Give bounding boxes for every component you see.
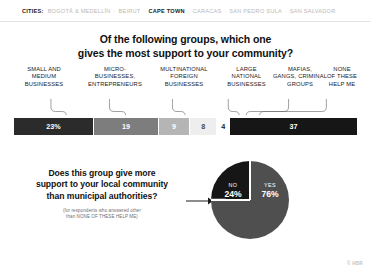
city-item-san-salvador[interactable]: SAN SALVADOR xyxy=(290,8,336,14)
footnote-line-2: than NONE OF THESE HELP ME) xyxy=(14,214,190,220)
pie-label-yes-value: 76% xyxy=(255,189,285,199)
chart-headline: Of the following groups, which one gives… xyxy=(0,33,371,60)
leader-line-1 xyxy=(109,99,125,115)
arrow-right-icon xyxy=(186,196,214,206)
leader-line-4 xyxy=(246,99,288,115)
city-item-beirut[interactable]: BEIRUT xyxy=(119,8,141,14)
pie-label-yes-key: YES xyxy=(255,182,285,188)
cities-nav: CITIES: BOGOTÁ & MEDELLÍN · BEIRUT · CAP… xyxy=(0,0,371,22)
leader-line-0 xyxy=(51,99,66,115)
city-item-bogota-medellin[interactable]: BOGOTÁ & MEDELLÍN xyxy=(48,8,111,14)
bar-segment-multinational-foreign[interactable]: 9 xyxy=(158,118,189,135)
pie-label-yes: YES 76% xyxy=(255,182,285,199)
bar-category-label-1: MICRO-BUSINESSES,ENTREPRENEURS xyxy=(82,66,148,88)
credit-hbr: © HBR xyxy=(347,261,363,266)
followup-line-2: support to your local community xyxy=(14,179,190,190)
bar-segment-mafias-gangs[interactable]: 4 xyxy=(216,118,230,135)
bar-category-label-0: SMALL ANDMEDIUMBUSINESSES xyxy=(12,66,76,88)
headline-line-1: Of the following groups, which one xyxy=(0,33,371,47)
city-item-cape-town[interactable]: CAPE TOWN xyxy=(148,8,184,14)
city-item-san-pedro-sula[interactable]: SAN PEDRO SULA xyxy=(229,8,282,14)
cities-label: CITIES: xyxy=(22,8,44,14)
city-separator: · xyxy=(114,8,116,14)
city-item-caracas[interactable]: CARACAS xyxy=(193,8,222,14)
bar-category-label-2: MULTINATIONALFOREIGNBUSINESSES xyxy=(150,66,218,88)
leader-line-2 xyxy=(172,99,185,115)
stacked-bar: 23% 19 9 8 4 37 xyxy=(14,118,357,135)
pie-chart: NO 24% YES 76% xyxy=(211,161,289,239)
pie-label-no: NO 24% xyxy=(218,182,248,199)
leader-line-5 xyxy=(260,99,327,115)
bar-segment-small-medium-businesses[interactable]: 23% xyxy=(14,118,93,135)
followup-line-1: Does this group give more xyxy=(14,168,190,179)
followup-question-footnote: (for respondents who answered other than… xyxy=(14,208,190,220)
followup-line-3: than municipal authorities? xyxy=(14,191,190,202)
city-separator: · xyxy=(188,8,190,14)
followup-question: Does this group give more support to you… xyxy=(14,168,190,220)
bar-segment-micro-businesses[interactable]: 19 xyxy=(93,118,158,135)
pie-divider-horizontal xyxy=(211,199,250,200)
pie-slices[interactable] xyxy=(211,161,289,239)
pie-label-no-key: NO xyxy=(218,182,248,188)
headline-line-2: gives the most support to your community… xyxy=(0,47,371,61)
bar-leader-lines xyxy=(0,98,371,116)
bar-segment-large-national-businesses[interactable]: 8 xyxy=(189,118,216,135)
leader-line-3 xyxy=(228,99,239,115)
pie-divider-vertical xyxy=(249,161,250,200)
followup-question-text: Does this group give more support to you… xyxy=(14,168,190,202)
city-separator: · xyxy=(224,8,226,14)
city-separator: · xyxy=(144,8,146,14)
city-separator: · xyxy=(285,8,287,14)
bar-category-labels: SMALL ANDMEDIUMBUSINESSES MICRO-BUSINESS… xyxy=(0,66,371,100)
bar-category-label-5: NONEOF THESEHELP ME xyxy=(318,66,366,88)
pie-label-no-value: 24% xyxy=(218,189,248,199)
bar-segment-none-of-these[interactable]: 37 xyxy=(230,118,357,135)
